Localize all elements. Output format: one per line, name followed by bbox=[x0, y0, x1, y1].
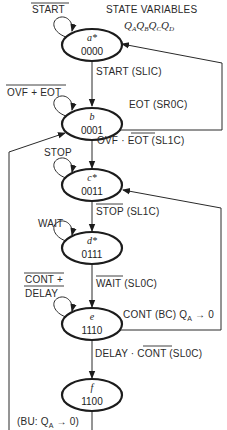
svg-text:1100: 1100 bbox=[81, 396, 103, 407]
transition-label-c-to-d: STOP (SL1C) bbox=[96, 204, 160, 217]
state-diagram: START STATE VARIABLES QAQBQCQD a* 0000 b… bbox=[0, 0, 227, 430]
svg-text:STATE VARIABLES: STATE VARIABLES bbox=[106, 4, 197, 15]
svg-text:OVF + EOT: OVF + EOT bbox=[7, 87, 61, 98]
svg-text:CONT +: CONT + bbox=[25, 274, 63, 285]
svg-text:DELAY · CONT (SL0C): DELAY · CONT (SL0C) bbox=[95, 348, 202, 359]
state-c: c* 0011 bbox=[62, 169, 122, 201]
svg-text:0111: 0111 bbox=[82, 249, 103, 260]
transition-label-e-to-f: DELAY · CONT (SL0C) bbox=[95, 346, 202, 359]
svg-text:1110: 1110 bbox=[82, 325, 103, 336]
state-variables-legend: STATE VARIABLES QAQBQCQD bbox=[106, 4, 197, 33]
state-d: d* 0111 bbox=[62, 232, 122, 264]
svg-text:0011: 0011 bbox=[81, 186, 103, 197]
transition-label-b-to-c: OVF · EOT (SL1C) bbox=[97, 133, 185, 146]
self-loop-label-e: CONT + DELAY bbox=[24, 273, 64, 299]
svg-text:START: START bbox=[32, 4, 65, 15]
state-a: a* 0000 bbox=[62, 29, 122, 61]
transition-label-a-to-b: START (SLIC) bbox=[96, 66, 162, 77]
svg-text:QAQBQCQD: QAQBQCQD bbox=[124, 19, 174, 33]
svg-text:a*: a* bbox=[87, 32, 97, 43]
transition-label-e-to-c: CONT (BC) QA → 0 bbox=[123, 309, 214, 322]
edge-b-to-a bbox=[120, 44, 222, 130]
svg-text:0000: 0000 bbox=[81, 46, 104, 57]
svg-text:c*: c* bbox=[87, 172, 96, 183]
svg-text:d*: d* bbox=[87, 235, 97, 246]
transition-label-d-to-e: WAIT (SL0C) bbox=[96, 276, 157, 289]
self-loop-label-b: OVF + EOT bbox=[6, 85, 66, 98]
svg-text:STOP (SL1C): STOP (SL1C) bbox=[96, 206, 160, 217]
transition-label-f-to-b: (BU: QA → 0) bbox=[17, 416, 79, 429]
state-e: e 1110 bbox=[62, 308, 122, 340]
svg-text:(BU: QA → 0): (BU: QA → 0) bbox=[17, 416, 79, 429]
self-loop-label-a: START bbox=[31, 3, 69, 15]
svg-text:WAIT (SL0C): WAIT (SL0C) bbox=[96, 278, 157, 289]
svg-text:e: e bbox=[90, 311, 95, 322]
transition-label-b-to-a: EOT (SR0C) bbox=[129, 99, 188, 110]
svg-text:OVF · EOT (SL1C): OVF · EOT (SL1C) bbox=[97, 135, 185, 146]
svg-text:DELAY: DELAY bbox=[25, 288, 58, 299]
svg-text:CONT (BC) QA → 0: CONT (BC) QA → 0 bbox=[123, 309, 214, 322]
svg-text:b: b bbox=[90, 111, 95, 122]
self-loop-label-d: WAIT bbox=[38, 218, 63, 229]
state-f: f 1100 bbox=[62, 379, 122, 411]
self-loop-label-c: STOP bbox=[44, 147, 72, 158]
